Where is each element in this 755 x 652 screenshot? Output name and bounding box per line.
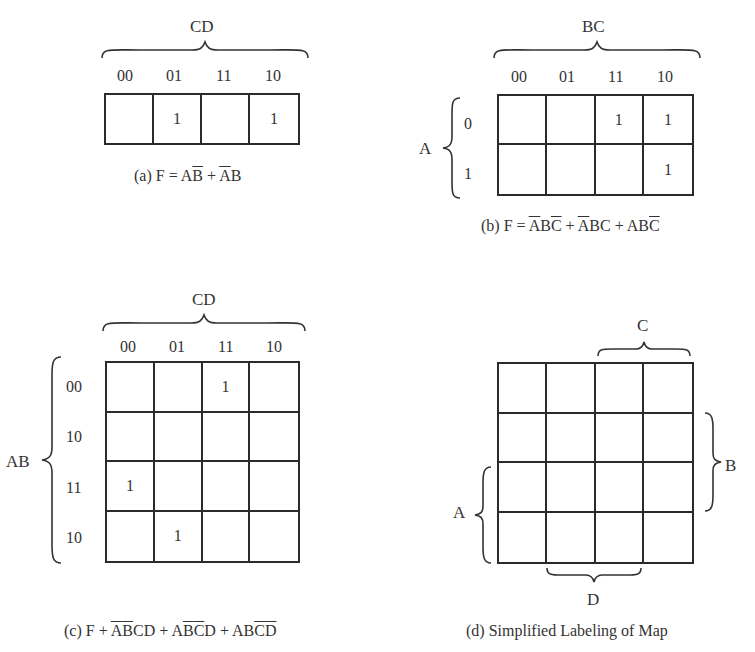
kmap-a-col-label-3: 10 bbox=[265, 68, 281, 84]
literal: D bbox=[144, 622, 156, 639]
complemented-literal: B bbox=[183, 622, 194, 639]
kmap-b-grid: 1 1 1 bbox=[497, 94, 694, 196]
kmap-c-cell bbox=[250, 363, 298, 413]
complemented-literal: C bbox=[194, 622, 205, 639]
kmap-c-cell bbox=[155, 363, 203, 413]
kmap-d-cell bbox=[547, 364, 595, 414]
kmap-a-col-label-1: 01 bbox=[166, 68, 182, 84]
kmap-b-cell bbox=[499, 96, 547, 145]
kmap-b-col-label-2: 11 bbox=[608, 69, 623, 85]
kmap-a-col-label-2: 11 bbox=[216, 68, 231, 84]
kmap-b-row-label-0: 0 bbox=[464, 116, 472, 132]
kmap-d-cell bbox=[499, 414, 547, 464]
kmap-a-top-brace bbox=[100, 40, 310, 60]
kmap-b-cell: 1 bbox=[644, 145, 692, 194]
kmap-d-a-brace bbox=[473, 465, 493, 565]
kmap-d-label-c: C bbox=[637, 318, 648, 334]
kmap-d-cell bbox=[596, 513, 644, 563]
kmap-b-col-label-0: 00 bbox=[511, 69, 527, 85]
kmap-d-label-a: A bbox=[453, 505, 465, 521]
kmap-c-cell bbox=[250, 512, 298, 562]
kmap-d-label-d: D bbox=[587, 592, 599, 608]
literal: D bbox=[204, 622, 216, 639]
complemented-literal: C bbox=[551, 217, 562, 234]
kmap-a-cell: 1 bbox=[250, 95, 298, 143]
kmap-c-col-label-2: 11 bbox=[218, 339, 233, 355]
kmap-b-cell bbox=[547, 96, 595, 145]
complemented-literal: A bbox=[578, 217, 590, 234]
kmap-c-cell bbox=[107, 512, 155, 562]
kmap-d-cell bbox=[596, 463, 644, 513]
kmap-a-cell: 1 bbox=[154, 95, 202, 143]
kmap-a-cell bbox=[106, 95, 154, 143]
literal: B bbox=[244, 622, 255, 639]
kmap-c-cell bbox=[107, 413, 155, 463]
kmap-a-caption: (a) F = AB + AB bbox=[134, 167, 241, 185]
complemented-literal: B bbox=[122, 622, 133, 639]
kmap-c-cell bbox=[155, 462, 203, 512]
kmap-c-cell: 1 bbox=[107, 462, 155, 512]
kmap-d-cell bbox=[644, 513, 692, 563]
literal: B bbox=[231, 167, 242, 184]
complemented-literal: A bbox=[219, 167, 231, 184]
kmap-c-row-label-0: 00 bbox=[66, 379, 82, 395]
kmap-b-cell bbox=[596, 145, 644, 194]
literal: B bbox=[638, 217, 649, 234]
kmap-c-row-label-2: 11 bbox=[66, 480, 81, 496]
complemented-literal: A bbox=[529, 217, 541, 234]
kmap-b-col-variable-label: BC bbox=[582, 19, 605, 35]
kmap-d-cell bbox=[547, 414, 595, 464]
kmap-b-col-label-3: 10 bbox=[657, 69, 673, 85]
kmap-c-cell: 1 bbox=[203, 363, 251, 413]
kmap-d-caption: (d) Simplified Labeling of Map bbox=[466, 622, 668, 640]
complemented-literal: B bbox=[192, 167, 203, 184]
kmap-b-cell: 1 bbox=[596, 96, 644, 145]
literal: B bbox=[540, 217, 551, 234]
kmap-d-cell bbox=[644, 463, 692, 513]
kmap-c-cell bbox=[203, 462, 251, 512]
kmap-b-top-brace bbox=[492, 40, 702, 60]
kmap-b-col-label-1: 01 bbox=[559, 69, 575, 85]
literal: C bbox=[600, 217, 611, 234]
kmap-c-cell bbox=[250, 462, 298, 512]
kmap-d-cell bbox=[644, 414, 692, 464]
kmap-d-d-brace bbox=[545, 566, 643, 584]
kmap-d-grid bbox=[497, 362, 694, 564]
kmap-b-cell bbox=[547, 145, 595, 194]
kmap-b-caption: (b) F = ABC + ABC + ABC bbox=[481, 217, 660, 235]
kmap-d-cell bbox=[644, 364, 692, 414]
kmap-c-cell bbox=[203, 512, 251, 562]
complemented-literal: D bbox=[265, 622, 277, 639]
kmap-d-cell bbox=[596, 364, 644, 414]
kmap-a-cell bbox=[202, 95, 250, 143]
kmap-c-top-brace bbox=[101, 313, 307, 333]
literal: B bbox=[589, 217, 600, 234]
kmap-d-cell bbox=[499, 364, 547, 414]
kmap-b-row-variable-label: A bbox=[419, 141, 431, 157]
literal: A bbox=[627, 217, 639, 234]
kmap-c-col-label-0: 00 bbox=[120, 339, 136, 355]
complemented-literal: A bbox=[111, 622, 123, 639]
kmap-b-left-brace bbox=[440, 96, 464, 200]
kmap-c-row-variable-label: AB bbox=[6, 454, 30, 470]
kmap-c-col-label-1: 01 bbox=[169, 339, 185, 355]
literal: A bbox=[232, 622, 244, 639]
kmap-c-cell bbox=[107, 363, 155, 413]
kmap-c-cell bbox=[250, 413, 298, 463]
kmap-c-cell bbox=[203, 413, 251, 463]
kmap-c-grid: 1 1 1 bbox=[105, 361, 300, 563]
complemented-literal: C bbox=[254, 622, 265, 639]
kmap-a-variable-label: CD bbox=[190, 19, 214, 35]
kmap-a-grid: 1 1 bbox=[104, 93, 300, 145]
literal: A bbox=[171, 622, 183, 639]
kmap-b-cell bbox=[499, 145, 547, 194]
kmap-c-cell: 1 bbox=[155, 512, 203, 562]
kmap-d-cell bbox=[547, 513, 595, 563]
kmap-d-cell bbox=[547, 463, 595, 513]
kmap-d-b-brace bbox=[703, 411, 723, 513]
kmap-c-left-brace bbox=[39, 355, 65, 565]
kmap-d-cell bbox=[596, 414, 644, 464]
kmap-c-cell bbox=[155, 413, 203, 463]
kmap-d-label-b: B bbox=[725, 458, 736, 474]
complemented-literal: C bbox=[649, 217, 660, 234]
